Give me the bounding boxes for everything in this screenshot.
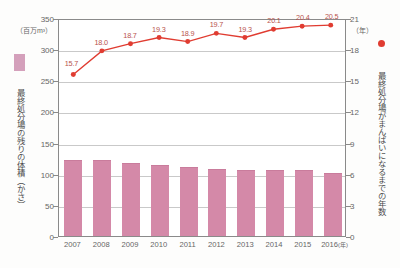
line-value-label: 19.7 <box>210 20 223 29</box>
x-axis-tick: 2013 <box>237 240 254 249</box>
right-axis-tick-label: 3 <box>350 201 370 210</box>
right-axis-tick-label: 9 <box>350 139 370 148</box>
legend-line-series-label: 最終処分場がまんぱいになるまでの年数 <box>377 51 386 236</box>
left-axis-tick-label: 300 <box>26 46 54 55</box>
right-axis-tick-label: 0 <box>350 233 370 242</box>
left-axis-tick-label: 50 <box>26 201 54 210</box>
right-axis-tick-mark <box>346 81 351 82</box>
line-value-label: 19.3 <box>152 25 165 34</box>
x-axis-tick: 2016(年) <box>321 240 348 249</box>
x-axis-tick: 2012 <box>208 240 225 249</box>
line-marker <box>242 35 247 40</box>
right-axis-tick-label: 18 <box>350 46 370 55</box>
line-marker <box>214 31 219 36</box>
legend-bar-series-label: 最終処分場の残りの体積（かさ） <box>15 74 24 224</box>
line-value-label: 15.7 <box>65 59 78 68</box>
right-axis-tick-label: 15 <box>350 77 370 86</box>
x-axis-tick: 2014 <box>266 240 283 249</box>
line-value-label: 19.3 <box>238 25 251 34</box>
left-axis-unit: （百万m³） <box>16 25 52 35</box>
x-axis-tick: 2008 <box>93 240 110 249</box>
line-marker <box>185 39 190 44</box>
x-axis-tick: 2007 <box>64 240 81 249</box>
x-axis-unit-label: (年) <box>338 242 348 248</box>
left-axis-tick-mark <box>53 237 58 238</box>
left-axis-tick-label: 200 <box>26 108 54 117</box>
right-axis-tick-mark <box>346 144 351 145</box>
line-marker <box>71 72 76 77</box>
right-axis-tick-mark <box>346 206 351 207</box>
x-axis-tick: 2015 <box>294 240 311 249</box>
legend-line-series: 最終処分場がまんぱいになるまでの年数 <box>372 40 390 236</box>
line-marker <box>328 23 333 28</box>
line-value-label: 18.9 <box>181 29 194 38</box>
line-marker <box>99 48 104 53</box>
left-axis-tick-label: 150 <box>26 139 54 148</box>
right-axis-tick-label: 12 <box>350 108 370 117</box>
x-axis-tick: 2010 <box>150 240 167 249</box>
x-axis-tick: 2011 <box>179 240 195 249</box>
x-axis-tick: 2009 <box>122 240 139 249</box>
line-value-label: 20.5 <box>325 12 338 21</box>
line-value-label: 20.4 <box>296 13 309 22</box>
right-axis-tick-label: 21 <box>350 15 370 24</box>
left-axis-tick-label: 250 <box>26 77 54 86</box>
line-marker <box>271 27 276 32</box>
left-axis-tick-label: 350 <box>26 15 54 24</box>
right-axis-tick-mark <box>346 19 351 20</box>
plot-area <box>58 19 346 237</box>
chart-root: （百万m³） （年） 最終処分場の残りの体積（かさ） 最終処分場がまんぱいになる… <box>0 0 400 268</box>
line-value-label: 20.1 <box>267 16 280 25</box>
right-axis-tick-label: 6 <box>350 170 370 179</box>
left-axis-tick-label: 100 <box>26 170 54 179</box>
line-value-label: 18.7 <box>123 31 136 40</box>
right-axis-tick-mark <box>346 112 351 113</box>
line-path <box>73 25 330 74</box>
line-legend-marker-icon <box>378 40 385 47</box>
left-axis-tick-label: 0 <box>26 233 54 242</box>
line-marker <box>300 24 305 29</box>
line-marker <box>128 41 133 46</box>
line-series <box>59 20 345 236</box>
right-axis-tick-mark <box>346 237 351 238</box>
line-marker <box>157 35 162 40</box>
x-axis-tick-label: 2016 <box>321 240 338 249</box>
right-axis-tick-mark <box>346 50 351 51</box>
right-axis-tick-mark <box>346 175 351 176</box>
right-axis-unit: （年） <box>352 25 373 35</box>
bar-legend-swatch-icon <box>14 54 25 71</box>
line-value-label: 18.0 <box>94 38 107 47</box>
